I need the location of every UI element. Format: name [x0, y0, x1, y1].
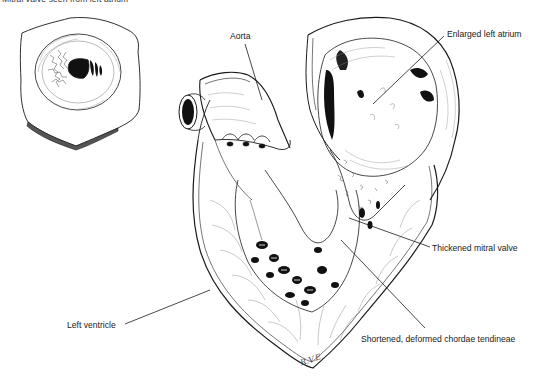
left-ventricle-leader-line: [125, 290, 210, 324]
chordae-leader-line: [341, 240, 425, 328]
label-aorta: Aorta: [230, 31, 251, 41]
aorta-leader-line: [245, 44, 262, 100]
label-enlarged-left-atrium: Enlarged left atrium: [447, 29, 522, 39]
heart-diagram: Mitral valve seen from left atrium: [0, 0, 541, 378]
left-atrium-leader-line: [373, 36, 444, 104]
label-thickened-mitral-valve: Thickened mitral valve: [432, 243, 518, 253]
label-left-ventricle: Left ventricle: [67, 320, 116, 330]
mitral-valve-leader-line: [349, 218, 430, 247]
label-chordae-tendineae: Shortened, deformed chordae tendineae: [361, 334, 515, 344]
